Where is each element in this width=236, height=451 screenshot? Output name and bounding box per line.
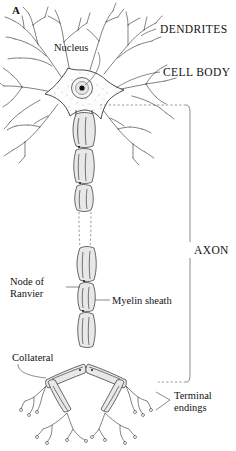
label-dendrites: DENDRITES xyxy=(160,23,228,35)
myelin-internode-group-proximal xyxy=(73,113,95,212)
neuron-diagram-figure: A DENDRITES CELL BODY Nucleus AXON Node … xyxy=(0,0,236,451)
label-terminal-endings-line1: Terminal xyxy=(174,390,212,401)
label-axon: AXON xyxy=(194,244,229,256)
label-nucleus: Nucleus xyxy=(54,42,88,53)
label-myelin-sheath: Myelin sheath xyxy=(112,295,173,306)
label-collateral: Collateral xyxy=(12,352,53,363)
label-node-of-ranvier-line1: Node of xyxy=(10,276,45,287)
label-node-of-ranvier-line2: Ranvier xyxy=(10,288,44,299)
label-cell-body: CELL BODY xyxy=(163,66,231,78)
nucleolus xyxy=(79,85,84,90)
myelin-internode-group-distal xyxy=(77,247,96,348)
label-terminal-endings-line2: endings xyxy=(174,402,207,413)
panel-letter: A xyxy=(12,4,20,16)
